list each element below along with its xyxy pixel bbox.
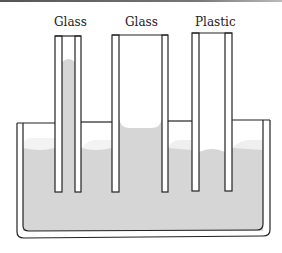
- tube-glass-wide: [112, 35, 168, 192]
- tube-plastic: [192, 33, 232, 191]
- tube-glass-narrow: [55, 36, 81, 192]
- capillary-diagram: [0, 0, 282, 253]
